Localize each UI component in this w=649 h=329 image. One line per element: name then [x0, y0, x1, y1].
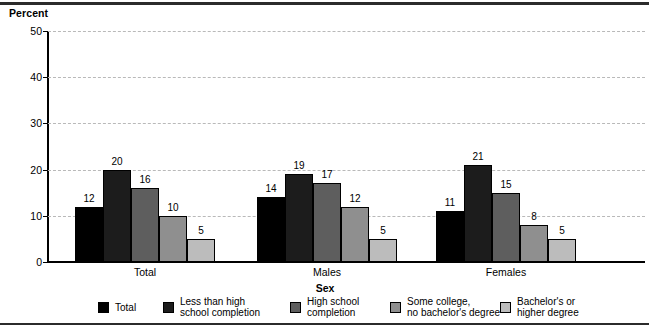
- bar-value-label: 5: [198, 225, 204, 236]
- bar-value-label: 16: [139, 174, 150, 185]
- x-axis-tick-label: Females: [486, 266, 526, 278]
- legend-label: High school completion: [307, 296, 359, 318]
- bar[interactable]: [187, 239, 215, 262]
- x-axis-tick-label: Males: [313, 266, 341, 278]
- bar-group: 122016105: [75, 31, 215, 262]
- legend-item[interactable]: Some college, no bachelor's degree: [390, 296, 500, 318]
- y-axis-tick: [43, 170, 48, 171]
- bar[interactable]: [548, 239, 576, 262]
- bar[interactable]: [103, 170, 131, 262]
- bar[interactable]: [464, 165, 492, 262]
- bar[interactable]: [341, 207, 369, 262]
- bar-group: 11211585: [436, 31, 576, 262]
- legend-label: Total: [115, 302, 136, 313]
- plot-area: 01020304050 12201610514191712511211585: [48, 31, 645, 262]
- legend-swatch: [98, 302, 109, 313]
- y-axis-tick: [43, 262, 48, 263]
- bar[interactable]: [313, 183, 341, 262]
- y-axis-tick: [43, 77, 48, 78]
- bar-value-label: 15: [500, 179, 511, 190]
- bar[interactable]: [257, 197, 285, 262]
- y-axis-tick-label: 40: [20, 71, 42, 83]
- bar-value-label: 12: [349, 193, 360, 204]
- bar[interactable]: [131, 188, 159, 262]
- bar-value-label: 8: [531, 211, 537, 222]
- y-axis-tick: [43, 216, 48, 217]
- y-axis-tick-label: 30: [20, 117, 42, 129]
- bar-value-label: 12: [83, 193, 94, 204]
- bar-value-label: 21: [472, 151, 483, 162]
- legend-label: Less than high school completion: [180, 296, 260, 318]
- legend-label: Bachelor's or higher degree: [517, 296, 579, 318]
- legend-swatch: [500, 302, 511, 313]
- y-axis-tick: [43, 31, 48, 32]
- legend-item[interactable]: Less than high school completion: [163, 296, 260, 318]
- bar-value-label: 19: [293, 160, 304, 171]
- bar[interactable]: [75, 207, 103, 262]
- bar-value-label: 17: [321, 169, 332, 180]
- bar[interactable]: [520, 225, 548, 262]
- bar-value-label: 5: [380, 225, 386, 236]
- y-axis-title: Percent: [9, 7, 48, 19]
- x-axis-tick-label: Total: [134, 266, 156, 278]
- legend-item[interactable]: Total: [98, 302, 136, 313]
- bar[interactable]: [159, 216, 187, 262]
- legend-item[interactable]: Bachelor's or higher degree: [500, 296, 579, 318]
- bar-value-label: 10: [167, 202, 178, 213]
- y-axis-tick-label: 20: [20, 164, 42, 176]
- legend-item[interactable]: High school completion: [290, 296, 359, 318]
- bottom-divider: [0, 323, 649, 325]
- bar-value-label: 14: [265, 183, 276, 194]
- bar-group: 141917125: [257, 31, 397, 262]
- y-axis-tick: [43, 123, 48, 124]
- bar[interactable]: [369, 239, 397, 262]
- bar[interactable]: [492, 193, 520, 262]
- top-divider: [0, 2, 649, 5]
- bar[interactable]: [436, 211, 464, 262]
- bar-value-label: 11: [445, 197, 455, 208]
- legend-swatch: [290, 302, 301, 313]
- bar[interactable]: [285, 174, 313, 262]
- legend-swatch: [163, 302, 174, 313]
- chart-legend: TotalLess than high school completionHig…: [0, 294, 649, 322]
- y-axis-tick-label: 0: [20, 256, 42, 268]
- y-axis-tick-label: 10: [20, 210, 42, 222]
- bar-value-label: 5: [559, 225, 565, 236]
- chart-figure: Percent 01020304050 12201610514191712511…: [0, 0, 649, 329]
- legend-swatch: [390, 302, 401, 313]
- bar-value-label: 20: [111, 156, 122, 167]
- y-axis-tick-label: 50: [20, 25, 42, 37]
- legend-label: Some college, no bachelor's degree: [407, 296, 500, 318]
- x-axis-title: Sex: [316, 282, 335, 294]
